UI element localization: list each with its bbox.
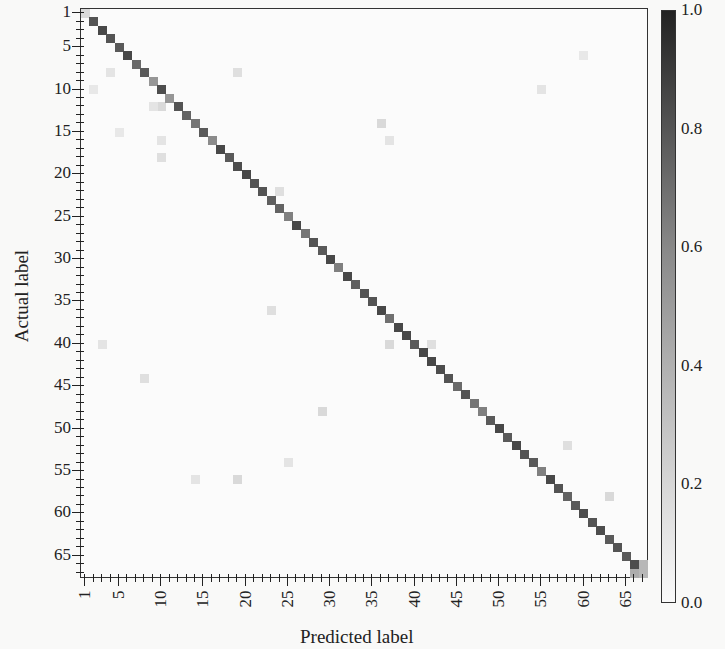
x-tick	[388, 574, 389, 582]
x-tick	[118, 574, 119, 586]
matrix-cell	[157, 153, 166, 162]
x-tick	[219, 574, 220, 582]
y-tick	[76, 29, 84, 30]
x-tick	[414, 574, 415, 586]
x-tick	[490, 574, 491, 582]
y-tick	[76, 368, 84, 369]
y-tick-label: 60	[54, 503, 71, 520]
x-tick	[574, 574, 575, 582]
x-tick	[481, 574, 482, 582]
matrix-cell	[377, 119, 386, 128]
matrix-cell	[639, 569, 648, 578]
y-tick	[72, 343, 84, 344]
x-tick	[279, 574, 280, 582]
y-tick	[76, 21, 84, 22]
y-tick	[76, 351, 84, 352]
x-tick	[194, 574, 195, 582]
y-tick	[76, 250, 84, 251]
y-tick	[72, 470, 84, 471]
x-tick	[405, 574, 406, 582]
matrix-cell	[115, 128, 124, 137]
y-tick	[76, 487, 84, 488]
matrix-cell	[106, 68, 115, 77]
x-tick	[566, 574, 567, 582]
x-tick	[169, 574, 170, 582]
y-tick	[76, 267, 84, 268]
x-tick	[253, 574, 254, 582]
x-tick	[110, 574, 111, 582]
y-tick	[76, 462, 84, 463]
x-tick	[101, 574, 102, 582]
x-tick	[625, 574, 626, 586]
x-tick	[591, 574, 592, 582]
y-tick	[76, 495, 84, 496]
confusion-matrix-plot	[80, 8, 648, 578]
x-tick	[371, 574, 372, 586]
y-tick	[76, 529, 84, 530]
x-tick-label: 20	[236, 591, 253, 619]
x-tick	[447, 574, 448, 582]
y-tick	[72, 173, 84, 174]
x-tick	[126, 574, 127, 582]
y-tick-label: 5	[63, 37, 72, 54]
x-tick-label: 10	[152, 591, 169, 619]
x-tick	[608, 574, 609, 582]
y-tick	[72, 46, 84, 47]
y-tick	[76, 97, 84, 98]
x-tick	[540, 574, 541, 586]
y-tick	[76, 394, 84, 395]
y-tick	[76, 445, 84, 446]
x-tick	[93, 574, 94, 582]
colorbar-tick-label: 0.0	[681, 594, 702, 611]
x-tick	[236, 574, 237, 582]
x-tick-label: 5	[110, 591, 127, 619]
y-tick	[76, 72, 84, 73]
y-tick	[76, 334, 84, 335]
y-tick	[76, 292, 84, 293]
y-axis-title: Actual label	[11, 236, 33, 356]
x-tick	[245, 574, 246, 586]
y-tick	[76, 38, 84, 39]
x-tick	[143, 574, 144, 582]
colorbar-tick-label: 0.6	[681, 238, 702, 255]
x-tick	[456, 574, 457, 586]
y-tick	[72, 12, 84, 13]
y-tick	[76, 182, 84, 183]
x-tick-label: 40	[405, 591, 422, 619]
y-tick	[76, 63, 84, 64]
x-tick	[304, 574, 305, 582]
y-tick	[72, 131, 84, 132]
x-tick	[160, 574, 161, 586]
x-tick-label: 60	[574, 591, 591, 619]
x-axis-title: Predicted label	[300, 626, 413, 648]
x-tick-label: 65	[616, 591, 633, 619]
matrix-cell	[157, 102, 166, 111]
x-tick	[295, 574, 296, 582]
matrix-cell	[385, 136, 394, 145]
x-tick	[363, 574, 364, 582]
x-tick-label: 45	[447, 591, 464, 619]
x-tick	[211, 574, 212, 582]
y-tick	[76, 199, 84, 200]
y-tick-label: 1	[63, 3, 72, 20]
matrix-cell	[275, 187, 284, 196]
x-tick	[177, 574, 178, 582]
x-tick	[549, 574, 550, 582]
y-tick	[76, 114, 84, 115]
x-tick-label: 50	[490, 591, 507, 619]
y-tick-label: 45	[54, 376, 71, 393]
matrix-cell	[284, 458, 293, 467]
x-tick-label: 30	[321, 591, 338, 619]
x-tick-label: 35	[363, 591, 380, 619]
matrix-cell	[579, 51, 588, 60]
matrix-cell	[385, 340, 394, 349]
y-tick	[76, 139, 84, 140]
y-tick-label: 10	[54, 80, 71, 97]
y-tick	[72, 512, 84, 513]
y-tick	[72, 216, 84, 217]
colorbar	[661, 10, 676, 603]
x-tick	[84, 574, 85, 586]
x-tick	[262, 574, 263, 582]
matrix-cell	[605, 492, 614, 501]
y-tick	[76, 411, 84, 412]
